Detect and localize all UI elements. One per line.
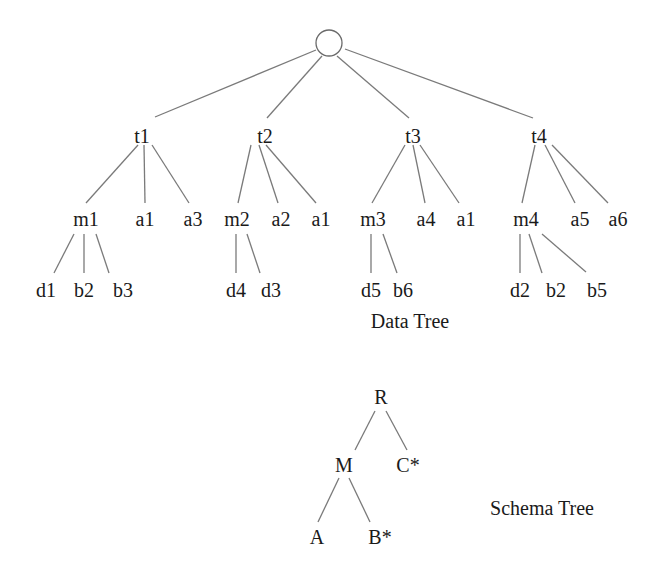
node-a4: a4 — [417, 209, 436, 229]
root-node-circle — [316, 30, 342, 56]
schema-node-m: M — [335, 455, 353, 475]
schema-node-c-star: C* — [396, 455, 419, 475]
node-d4: d4 — [226, 280, 246, 300]
node-a6: a6 — [609, 209, 628, 229]
node-m2: m2 — [224, 209, 250, 229]
node-d3: d3 — [261, 280, 281, 300]
data-tree-caption: Data Tree — [371, 311, 449, 331]
node-d5: d5 — [361, 280, 381, 300]
node-m1: m1 — [73, 209, 99, 229]
node-a1: a1 — [136, 209, 155, 229]
node-t2: t2 — [257, 126, 273, 146]
node-t1: t1 — [134, 126, 150, 146]
node-a1: a1 — [457, 209, 476, 229]
node-m3: m3 — [360, 209, 386, 229]
schema-tree-caption: Schema Tree — [490, 498, 594, 518]
node-d1: d1 — [36, 280, 56, 300]
node-a3: a3 — [184, 209, 203, 229]
node-d2: d2 — [510, 280, 530, 300]
node-m4: m4 — [513, 209, 539, 229]
node-b6: b6 — [393, 280, 413, 300]
schema-node-r: R — [374, 387, 387, 407]
node-t3: t3 — [405, 126, 421, 146]
node-a2: a2 — [272, 209, 291, 229]
node-b5: b5 — [587, 280, 607, 300]
node-a1: a1 — [312, 209, 331, 229]
schema-node-a: A — [310, 527, 324, 547]
node-a5: a5 — [571, 209, 590, 229]
node-b2: b2 — [546, 280, 566, 300]
node-b2: b2 — [74, 280, 94, 300]
node-t4: t4 — [531, 126, 547, 146]
schema-node-b-star: B* — [368, 527, 391, 547]
node-b3: b3 — [113, 280, 133, 300]
